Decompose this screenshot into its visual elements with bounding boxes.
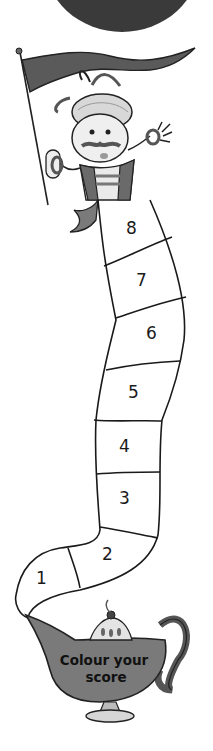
score-segment-6[interactable]: 6 bbox=[146, 323, 157, 343]
genie-score-illustration: 8 7 6 5 4 3 2 1 Colour your score bbox=[0, 0, 213, 751]
score-segment-4[interactable]: 4 bbox=[119, 436, 130, 456]
score-segment-2[interactable]: 2 bbox=[102, 544, 113, 564]
magic-lamp-icon: Colour your score bbox=[26, 600, 186, 722]
score-segment-1[interactable]: 1 bbox=[36, 568, 47, 588]
score-track bbox=[16, 200, 186, 618]
top-circle bbox=[44, 0, 200, 32]
score-segment-8[interactable]: 8 bbox=[126, 218, 137, 238]
score-segment-7[interactable]: 7 bbox=[136, 270, 147, 290]
lamp-label-line2: score bbox=[85, 669, 126, 685]
score-segment-3[interactable]: 3 bbox=[119, 488, 130, 508]
score-segment-5[interactable]: 5 bbox=[128, 382, 139, 402]
score-segment-labels: 8 7 6 5 4 3 2 1 bbox=[36, 218, 157, 588]
lamp-label-line1: Colour your bbox=[60, 652, 149, 668]
